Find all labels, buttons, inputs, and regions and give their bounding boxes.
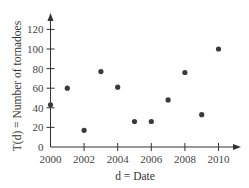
data-point <box>65 86 70 91</box>
data-point <box>166 97 171 102</box>
y-axis-arrow-icon <box>48 13 54 21</box>
y-tick-label: 0 <box>38 141 44 153</box>
data-point <box>132 119 137 124</box>
x-axis-title: d = Date <box>115 170 155 182</box>
x-ticks: 200020022004200620082010 <box>40 143 231 165</box>
x-tick-label: 2004 <box>107 153 130 165</box>
data-point <box>115 85 120 90</box>
axes <box>48 13 242 150</box>
y-tick-label: 120 <box>27 23 44 35</box>
y-axis-title: T(d) = Number of tornadoes <box>11 20 24 151</box>
y-tick-label: 80 <box>33 63 45 75</box>
y-tick-label: 20 <box>33 121 45 133</box>
data-point <box>182 70 187 75</box>
x-axis-arrow-icon <box>233 144 241 150</box>
y-tick-label: 100 <box>27 43 44 55</box>
x-tick-label: 2010 <box>208 153 231 165</box>
data-point <box>82 128 87 133</box>
data-point <box>149 119 154 124</box>
data-point <box>216 46 221 51</box>
x-tick-label: 2000 <box>40 153 63 165</box>
data-point <box>199 112 204 117</box>
y-tick-label: 40 <box>33 102 45 114</box>
data-point <box>48 102 53 107</box>
data-point <box>98 69 103 74</box>
data-points <box>48 46 221 133</box>
x-tick-label: 2002 <box>73 153 95 165</box>
scatter-chart: 020406080100120 200020022004200620082010… <box>0 0 249 188</box>
x-tick-label: 2008 <box>174 153 197 165</box>
y-tick-label: 60 <box>33 82 45 94</box>
x-tick-label: 2006 <box>140 153 163 165</box>
